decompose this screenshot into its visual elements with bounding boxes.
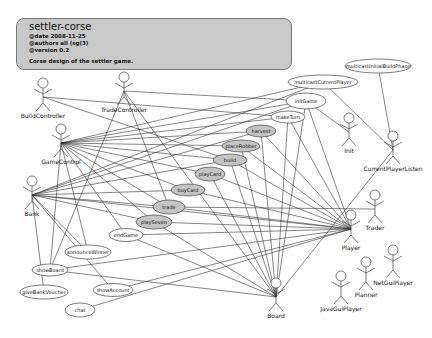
stick-figure-icon [384, 131, 402, 164]
actor-Board[interactable]: Board [267, 278, 285, 319]
association-line [61, 101, 306, 143]
use-case-chat[interactable]: chat [65, 303, 95, 317]
use-case-label: announceWinner [67, 249, 110, 255]
use-cases: multicastInitialBuildPhasemulticastCurre… [20, 59, 411, 317]
actor-label: BuildController [21, 112, 66, 119]
use-case-initGame[interactable]: initGame [286, 93, 326, 109]
note-authors: @authors all (sg(3) [29, 40, 291, 47]
diagram-note: settler-corse @date 2008-11-25 @authors … [16, 18, 292, 70]
note-version: @version 0.2 [29, 47, 291, 54]
actor-label: TradeController [100, 106, 147, 113]
use-case-label: buyCard [178, 187, 199, 194]
use-case-multicastInitialBuildPhase[interactable]: multicastInitialBuildPhase [345, 59, 411, 73]
use-case-makeTurn[interactable]: makeTurn [271, 111, 305, 123]
association-line [61, 143, 126, 235]
actor-label: Trader [365, 224, 385, 231]
use-case-diagram: multicastInitialBuildPhasemulticastCurre… [0, 0, 432, 338]
use-case-buyCard[interactable]: buyCard [171, 184, 205, 196]
note-date: @date 2008-11-25 [29, 33, 291, 40]
association-line [61, 143, 169, 207]
association-line [126, 235, 276, 297]
use-case-multicastCurrentPlayer[interactable]: multicastCurrentPlayer [288, 75, 358, 89]
use-case-giveBankVoucher[interactable]: giveBankVoucher [20, 285, 68, 299]
use-case-placeRobber[interactable]: placeRobber [222, 140, 260, 152]
actor-CurrentPlayerListen[interactable]: CurrentPlayerListen [363, 131, 422, 173]
use-case-playSeven[interactable]: playSeven [136, 215, 172, 229]
actor-label: GameControl [41, 158, 81, 165]
stick-figure-icon [357, 257, 375, 290]
actor-label: Bank [24, 210, 40, 217]
note-title: settler-corse [29, 21, 291, 33]
actor-TradeController[interactable]: TradeController [100, 72, 147, 113]
association-line [276, 101, 306, 297]
use-case-label: makeTurn [276, 114, 300, 120]
actor-label: Player [342, 244, 361, 252]
actor-label: NetGuiPlayer [373, 279, 413, 287]
association-line [32, 82, 323, 195]
use-case-label: build [224, 157, 236, 163]
association-line [261, 131, 351, 229]
stick-figure-icon [34, 78, 52, 111]
stick-figure-icon [366, 190, 384, 223]
use-case-label: playSeven [141, 219, 167, 226]
use-case-harvest[interactable]: harvest [246, 125, 276, 137]
association-line [43, 97, 288, 117]
actor-label: Board [267, 312, 285, 319]
use-case-announceWinner[interactable]: announceWinner [65, 245, 111, 259]
actor-NetGuiPlayer[interactable]: NetGuiPlayer [373, 245, 413, 287]
use-case-label: showAccount [96, 287, 129, 293]
use-case-label: giveBankVoucher [22, 289, 66, 296]
actor-Init[interactable]: Init [340, 113, 358, 154]
association-line [50, 270, 276, 297]
use-case-showAccount[interactable]: showAccount [93, 284, 133, 297]
actor-label: CurrentPlayerListen [363, 165, 422, 173]
association-line [126, 229, 351, 235]
association-line [61, 143, 210, 174]
association-line [169, 207, 375, 209]
association-line [32, 195, 351, 229]
note-description: Corse design of the settler game. [29, 58, 291, 65]
association-line [230, 160, 351, 229]
association-line [288, 117, 351, 229]
stick-figure-icon [332, 271, 350, 304]
use-case-label: multicastCurrentPlayer [294, 79, 352, 86]
association-line [32, 195, 169, 207]
use-case-label: harvest [252, 128, 271, 134]
use-case-label: placeRobber [225, 143, 257, 150]
stick-figure-icon [115, 72, 133, 105]
use-case-trade[interactable]: trade [153, 200, 185, 214]
association-line [32, 195, 154, 222]
use-case-label: endGame [114, 232, 138, 238]
use-case-showBoard[interactable]: showBoard [32, 264, 68, 276]
actor-label: JavaGuiPlayer [319, 305, 362, 313]
use-case-label: trade [162, 204, 175, 210]
actor-Planner[interactable]: Planner [355, 257, 378, 298]
stick-figure-icon [340, 113, 358, 146]
association-line [32, 101, 306, 195]
use-case-playCard[interactable]: playCard [195, 167, 225, 181]
use-case-label: chat [75, 307, 86, 313]
actor-Trader[interactable]: Trader [365, 190, 385, 231]
use-case-label: initGame [295, 98, 318, 104]
association-line [32, 195, 88, 252]
stick-figure-icon [384, 245, 402, 278]
use-case-build[interactable]: build [213, 154, 247, 166]
association-line [113, 229, 351, 290]
use-case-endGame[interactable]: endGame [109, 229, 143, 242]
association-line [154, 222, 276, 297]
actor-label: Planner [355, 291, 378, 298]
use-case-label: multicastInitialBuildPhase [346, 63, 410, 69]
association-line [276, 117, 288, 297]
association-line [210, 174, 276, 297]
use-case-label: showBoard [36, 267, 64, 273]
actor-label: Init [344, 147, 354, 154]
use-case-label: playCard [199, 171, 221, 178]
association-line [261, 131, 276, 297]
association-line [230, 160, 276, 297]
association-line [61, 143, 188, 190]
